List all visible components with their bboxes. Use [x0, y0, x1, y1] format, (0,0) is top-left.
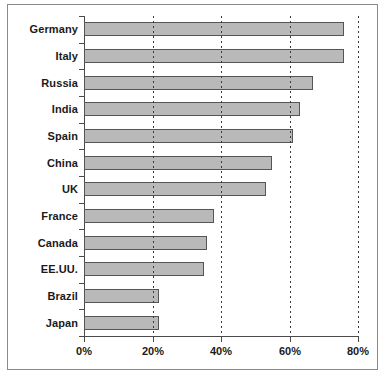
x-axis-tick: [221, 337, 222, 342]
category-label: China: [0, 157, 78, 169]
y-axis-tick: [79, 283, 85, 284]
y-axis-tick: [79, 69, 85, 70]
y-axis-tick: [79, 43, 85, 44]
category-label: UK: [0, 183, 78, 195]
x-axis-tick: [153, 337, 154, 342]
bar-uk: [84, 182, 266, 196]
bar-germany: [84, 22, 344, 36]
bar-canada: [84, 236, 207, 250]
gridline-20pct: [153, 16, 154, 336]
y-axis-tick: [79, 16, 85, 17]
x-axis-tick: [358, 337, 359, 342]
bar-france: [84, 209, 214, 223]
y-axis-tick: [79, 256, 85, 257]
x-axis-tick-label: 0%: [61, 345, 107, 358]
bar-russia: [84, 76, 313, 90]
bar-brazil: [84, 289, 159, 303]
gridline-80pct: [358, 16, 359, 336]
category-label: Brazil: [0, 290, 78, 302]
bar-india: [84, 102, 300, 116]
gridline-40pct: [221, 16, 222, 336]
y-axis-tick: [79, 149, 85, 150]
gridline-60pct: [290, 16, 291, 336]
y-axis-tick: [79, 176, 85, 177]
y-axis-tick: [79, 123, 85, 124]
bar-china: [84, 156, 272, 170]
y-axis-tick: [79, 229, 85, 230]
bar-ee-uu: [84, 262, 204, 276]
y-axis-tick: [79, 96, 85, 97]
y-axis-tick: [79, 203, 85, 204]
category-label: Japan: [0, 317, 78, 329]
bar-japan: [84, 316, 159, 330]
x-axis-tick: [290, 337, 291, 342]
category-label: France: [0, 210, 78, 222]
x-axis-tick-label: 60%: [267, 345, 313, 358]
y-axis-tick: [79, 309, 85, 310]
bar-spain: [84, 129, 293, 143]
bar-chart-figure: GermanyItalyRussiaIndiaSpainChinaUKFranc…: [0, 0, 387, 380]
x-axis-tick: [84, 337, 85, 342]
category-label: Italy: [0, 50, 78, 62]
bar-italy: [84, 49, 344, 63]
category-label: Germany: [0, 23, 78, 35]
category-label: Spain: [0, 130, 78, 142]
category-label: India: [0, 103, 78, 115]
category-label: Canada: [0, 237, 78, 249]
x-axis-tick-label: 20%: [130, 345, 176, 358]
x-axis-tick-label: 80%: [335, 345, 381, 358]
category-label: EE.UU.: [0, 263, 78, 275]
category-label: Russia: [0, 77, 78, 89]
x-axis-tick-label: 40%: [198, 345, 244, 358]
